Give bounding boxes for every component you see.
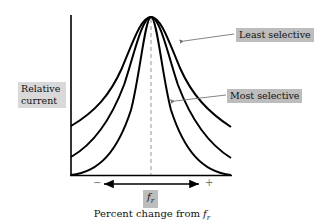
least-selective-label: Least selective bbox=[236, 28, 314, 42]
x-axis-label-text: Percent change from bbox=[94, 208, 203, 219]
plus-sign: + bbox=[205, 177, 213, 188]
y-axis-label: Relative current bbox=[18, 82, 66, 108]
fr-subscript: r bbox=[151, 197, 154, 205]
least-selective-arrow bbox=[184, 34, 234, 41]
x-axis-label: Percent change from fr bbox=[0, 208, 304, 222]
x-axis-label-subscript: r bbox=[207, 214, 210, 222]
resonant-frequency-label: fr bbox=[143, 190, 158, 208]
y-axis-label-text: Relative current bbox=[21, 83, 63, 107]
most-selective-label: Most selective bbox=[227, 89, 302, 103]
minus-sign: − bbox=[93, 177, 101, 188]
